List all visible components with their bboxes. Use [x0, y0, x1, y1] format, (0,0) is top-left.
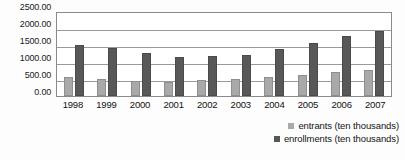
bar-enrollments-2000	[142, 53, 151, 96]
x-tick-label: 2000	[123, 99, 157, 115]
y-tick-label: 1000.00	[20, 53, 51, 63]
bar-group	[291, 13, 324, 96]
bar-group	[191, 13, 224, 96]
bar-entrants-1998	[64, 77, 73, 96]
bar-group	[124, 13, 157, 96]
legend-label: enrollments (ten thousands)	[284, 133, 399, 144]
x-axis: 1998199920002001200220032004200520062007	[56, 99, 392, 115]
legend-label: entrants (ten thousands)	[298, 120, 399, 131]
chart-legend: entrants (ten thousands)enrollments (ten…	[0, 120, 405, 144]
bar-entrants-2006	[331, 72, 340, 96]
x-tick-label: 2002	[190, 99, 224, 115]
bar-entrants-2007	[364, 70, 373, 96]
bar-enrollments-2001	[175, 57, 184, 96]
legend-item[interactable]: entrants (ten thousands)	[288, 120, 399, 131]
legend-swatch-icon	[288, 123, 294, 129]
x-tick-label: 2001	[157, 99, 191, 115]
legend-item[interactable]: enrollments (ten thousands)	[274, 133, 399, 144]
bar-group	[257, 13, 290, 96]
bar-enrollments-2003	[242, 55, 251, 96]
bar-group	[224, 13, 257, 96]
plot-wrapper: 2500.002000.001500.001000.00500.000.00 1…	[0, 0, 405, 118]
bar-enrollments-2002	[208, 56, 217, 96]
bar-group	[324, 13, 357, 96]
plot-area	[56, 12, 392, 97]
bar-enrollments-2006	[342, 36, 351, 96]
y-tick-label: 1500.00	[20, 36, 51, 46]
bar-enrollments-2004	[275, 49, 284, 96]
bar-group	[90, 13, 123, 96]
y-axis: 2500.002000.001500.001000.00500.000.00	[0, 7, 54, 97]
y-tick-label: 2500.00	[20, 2, 51, 12]
bar-group	[157, 13, 190, 96]
x-tick-label: 2006	[325, 99, 359, 115]
bar-entrants-2003	[231, 79, 240, 96]
bar-entrants-2002	[197, 80, 206, 96]
x-tick-label: 2003	[224, 99, 258, 115]
y-tick-label: 2000.00	[20, 19, 51, 29]
x-tick-label: 2007	[358, 99, 392, 115]
x-tick-label: 1999	[90, 99, 124, 115]
bar-entrants-2005	[298, 75, 307, 96]
bar-group	[358, 13, 391, 96]
bar-enrollments-2005	[309, 43, 318, 96]
x-tick-label: 1998	[56, 99, 90, 115]
bar-entrants-2004	[264, 77, 273, 96]
bar-entrants-1999	[97, 79, 106, 96]
bar-chart: 2500.002000.001500.001000.00500.000.00 1…	[0, 0, 405, 160]
bar-group	[57, 13, 90, 96]
y-tick-label: 0.00	[34, 87, 51, 97]
bar-enrollments-1999	[108, 48, 117, 96]
legend-swatch-icon	[274, 136, 280, 142]
x-tick-label: 2004	[258, 99, 292, 115]
x-tick-label: 2005	[291, 99, 325, 115]
bar-enrollments-2007	[375, 31, 384, 96]
y-tick-label: 500.00	[25, 70, 51, 80]
bar-enrollments-1998	[75, 45, 84, 96]
bar-entrants-2000	[131, 81, 140, 96]
bar-entrants-2001	[164, 82, 173, 96]
bars-layer	[57, 13, 391, 96]
